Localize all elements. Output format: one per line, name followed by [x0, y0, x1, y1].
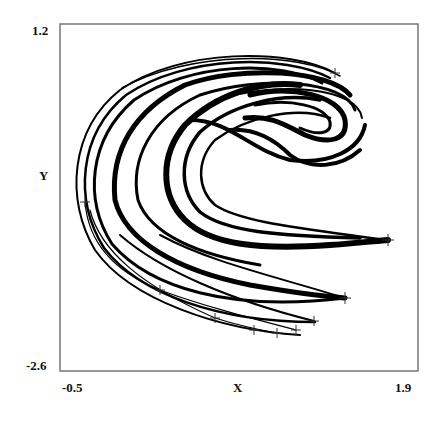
attractor-bands [76, 56, 388, 335]
attractor-figure: 1.2 -2.6 -0.5 1.9 X Y [0, 0, 440, 421]
y-axis-min-label: -2.6 [26, 358, 47, 374]
y-axis-max-label: 1.2 [32, 23, 48, 39]
y-axis-title: Y [39, 168, 48, 184]
x-axis-max-label: 1.9 [395, 380, 411, 396]
x-axis-min-label: -0.5 [62, 380, 83, 396]
x-axis-title: X [233, 380, 242, 396]
plot-canvas [0, 0, 440, 421]
